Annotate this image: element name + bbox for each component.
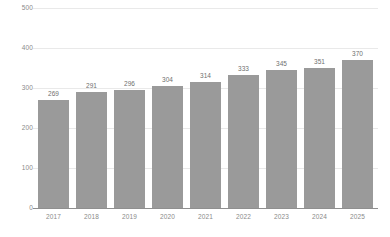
x-axis-tick-label: 2023 — [266, 214, 297, 221]
y-axis-tick-label: 500 — [22, 5, 33, 12]
x-axis-tick-label: 2024 — [304, 214, 335, 221]
x-axis-tick-label: 2017 — [38, 214, 69, 221]
bar — [114, 90, 145, 208]
bar — [342, 60, 373, 208]
bar — [152, 86, 183, 208]
y-axis-tick-label: 200 — [22, 125, 33, 132]
y-axis-tick-label: 100 — [22, 165, 33, 172]
bar-value-label: 291 — [76, 83, 107, 90]
x-axis-tick-label: 2025 — [342, 214, 373, 221]
bar-value-label: 296 — [114, 81, 145, 88]
axis-baseline — [33, 208, 378, 209]
bar-value-label: 314 — [190, 73, 221, 80]
y-axis-tick-label: 400 — [22, 45, 33, 52]
bar-chart: 0100200300400500 26929129630431433334535… — [0, 0, 390, 237]
bar-value-label: 269 — [38, 91, 69, 98]
x-axis-tick-label: 2022 — [228, 214, 259, 221]
y-axis-tick-label: 300 — [22, 85, 33, 92]
x-axis-tick-label: 2019 — [114, 214, 145, 221]
y-axis-tick-label: 0 — [29, 205, 33, 212]
bar — [266, 70, 297, 208]
bar-value-label: 370 — [342, 51, 373, 58]
bar-value-label: 333 — [228, 66, 259, 73]
bar-value-label: 351 — [304, 59, 335, 66]
bar-value-label: 345 — [266, 61, 297, 68]
bar — [76, 92, 107, 208]
bar — [38, 100, 69, 208]
bar — [228, 75, 259, 208]
gridline — [33, 48, 378, 49]
x-axis-tick-label: 2020 — [152, 214, 183, 221]
bar — [304, 68, 335, 208]
bar-value-label: 304 — [152, 77, 183, 84]
bar — [190, 82, 221, 208]
gridline — [33, 8, 378, 9]
x-axis-tick-label: 2018 — [76, 214, 107, 221]
x-axis-tick-label: 2021 — [190, 214, 221, 221]
